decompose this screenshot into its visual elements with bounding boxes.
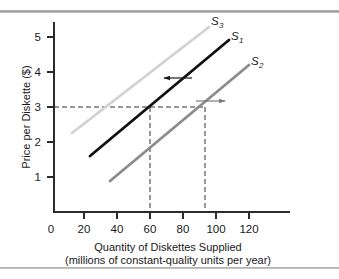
y-tick-label-2: 2 (35, 136, 41, 148)
supply-curve-chart: 1 2 3 4 5 0 20 40 60 80 100 120 (0, 14, 339, 266)
x-tick-label-60: 60 (144, 223, 157, 235)
x-axis-tick-labels: 0 20 40 60 80 100 120 (48, 223, 259, 235)
shift-arrows-group (164, 78, 225, 101)
y-axis-tick-labels: 1 2 3 4 5 (35, 31, 42, 183)
curve-label-s2-subscript: 2 (258, 61, 264, 70)
curve-label-s3: S (211, 15, 219, 27)
y-tick-label-4: 4 (35, 66, 42, 78)
x-axis-title: Quantity of Diskettes Supplied (94, 241, 241, 253)
curve-label-s1: S (231, 30, 239, 42)
x-tick-label-100: 100 (206, 223, 225, 235)
curve-label-s2: S (251, 55, 259, 67)
x-tick-label-80: 80 (177, 223, 190, 235)
y-tick-label-3: 3 (35, 101, 41, 113)
x-tick-label-0: 0 (48, 223, 54, 235)
x-tick-label-120: 120 (239, 223, 258, 235)
x-axis-ticks (84, 212, 249, 219)
axes-group (53, 22, 290, 212)
y-tick-label-5: 5 (35, 31, 41, 43)
x-tick-label-20: 20 (78, 223, 91, 235)
figure-container: 1 2 3 4 5 0 20 40 60 80 100 120 (0, 0, 339, 279)
curve-labels-group: S 3 S 1 S 2 (211, 15, 264, 70)
top-divider-rule (0, 10, 339, 13)
y-axis-title: Price per Diskette ($) (20, 65, 32, 168)
y-axis-ticks (47, 37, 54, 177)
x-axis-subtitle: (millions of constant-quality units per … (65, 254, 271, 266)
y-tick-label-1: 1 (35, 171, 41, 183)
bottom-divider-rule (0, 267, 339, 269)
supply-curves-group (72, 27, 249, 181)
curve-label-s1-subscript: 1 (239, 36, 243, 45)
x-tick-label-40: 40 (111, 223, 124, 235)
curve-label-s3-subscript: 3 (219, 21, 224, 30)
